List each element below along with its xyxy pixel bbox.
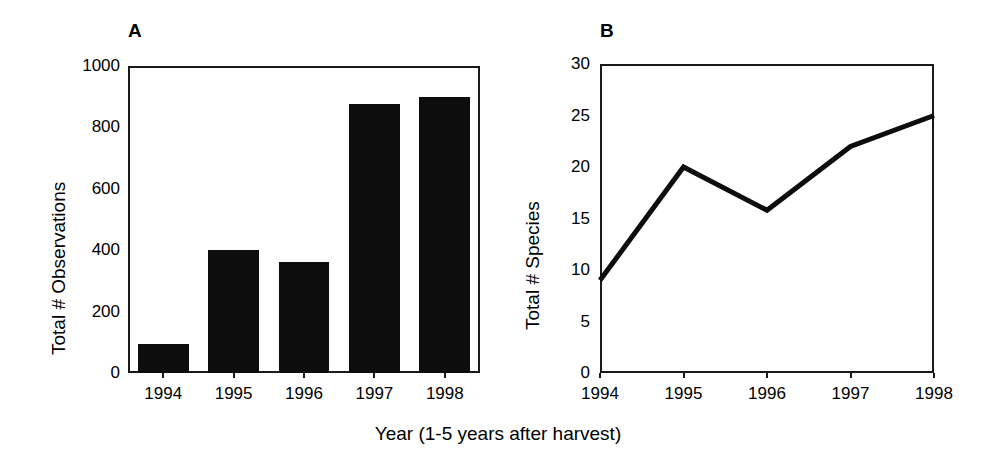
panel-a-x-tick-mark xyxy=(233,373,235,378)
panel-a-x-tick-mark xyxy=(444,373,446,378)
panel-a-x-tick-mark xyxy=(373,373,375,378)
panel-b-line-series xyxy=(496,0,996,410)
panel-a-x-tick: 1994 xyxy=(144,384,182,404)
panel-b: B Total # Species 051015202530 199419951… xyxy=(496,0,996,410)
panel-a: A Total # Observations 02004006008001000… xyxy=(0,0,500,410)
panel-a-y-tick: 600 xyxy=(60,179,120,199)
panel-a-x-tick-mark xyxy=(303,373,305,378)
panel-a-bar xyxy=(138,344,189,373)
panel-b-line-path xyxy=(600,116,934,281)
panel-a-x-tick: 1997 xyxy=(355,384,393,404)
panel-a-bar xyxy=(419,97,470,373)
panel-a-y-tick: 0 xyxy=(60,363,120,383)
panel-a-x-tick: 1996 xyxy=(285,384,323,404)
figure-container: A Total # Observations 02004006008001000… xyxy=(0,0,996,465)
panel-a-x-tick: 1995 xyxy=(215,384,253,404)
panel-a-y-tick: 400 xyxy=(60,240,120,260)
panel-a-letter: A xyxy=(128,20,142,42)
panel-a-y-tick: 800 xyxy=(60,117,120,137)
panel-a-bar xyxy=(349,104,400,373)
x-axis-caption: Year (1-5 years after harvest) xyxy=(0,423,996,445)
panel-a-y-tick: 1000 xyxy=(60,56,120,76)
panel-a-x-tick: 1998 xyxy=(426,384,464,404)
panel-a-bar xyxy=(208,250,259,373)
panel-a-bar xyxy=(279,262,330,373)
panel-a-x-tick-mark xyxy=(162,373,164,378)
panel-a-y-axis-title: Total # Observations xyxy=(48,182,70,355)
panel-a-y-tick: 200 xyxy=(60,302,120,322)
